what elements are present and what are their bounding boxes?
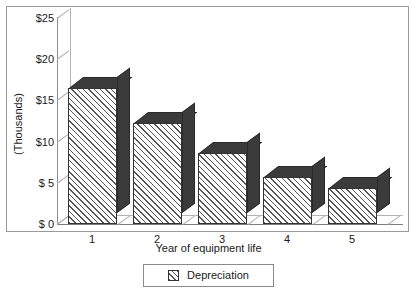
bar-front-face	[198, 153, 247, 224]
bar-side-face	[247, 133, 260, 213]
bar-year-3	[198, 0, 247, 224]
bar-side-face	[117, 68, 130, 213]
bar-year-5	[328, 0, 377, 224]
y-axis-title: (Thousands)	[12, 64, 24, 184]
bar-side-face	[182, 103, 195, 213]
bar-front-face	[133, 123, 182, 224]
axis-floor-front-edge	[57, 224, 403, 225]
bar-chart: $25 $20 $15 $10 $ 5 $ 0 (Thousands)	[0, 0, 417, 296]
y-axis-line	[57, 17, 58, 225]
bar-front-face	[68, 88, 117, 224]
legend-label-depreciation: Depreciation	[187, 270, 249, 281]
chart-legend: Depreciation	[143, 264, 274, 287]
bar-year-2	[133, 0, 182, 224]
y-tick-label: $ 0	[8, 219, 54, 230]
bar-year-1	[68, 0, 117, 224]
y-tick-label: $25	[8, 13, 54, 24]
x-axis-title: Year of equipment life	[0, 242, 417, 254]
bar-side-face	[312, 157, 325, 213]
legend-swatch-depreciation	[168, 270, 179, 281]
bar-year-4	[263, 0, 312, 224]
bar-front-face	[328, 188, 377, 224]
bar-front-face	[263, 177, 312, 224]
